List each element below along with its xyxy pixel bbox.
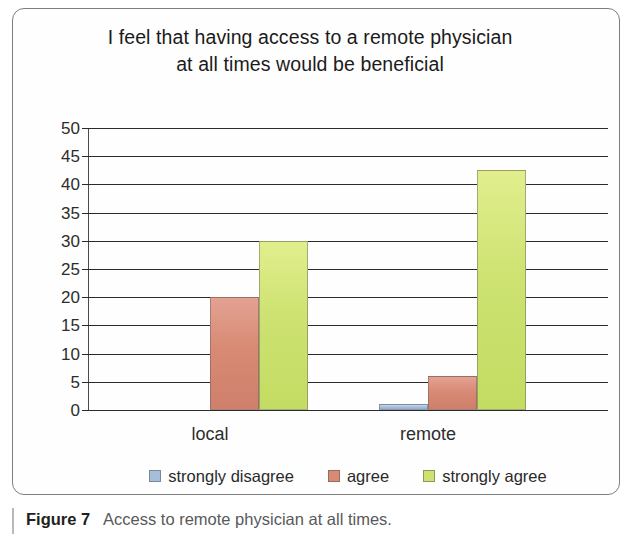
gridline-0 (88, 410, 608, 411)
legend-item-strongly-agree[interactable]: strongly agree (423, 468, 547, 484)
legend-label-strongly-agree: strongly agree (442, 468, 547, 484)
caption-rule (12, 508, 14, 534)
chart-legend: strongly disagreeagreestrongly agree (88, 468, 608, 484)
y-tick-mark-20 (82, 297, 88, 298)
y-tick-label-50: 50 (36, 120, 80, 137)
gridline-10 (88, 354, 608, 355)
y-tick-label-25: 25 (36, 261, 80, 278)
bar-remote-agree (428, 376, 477, 410)
plot-area (88, 128, 608, 410)
legend-swatch-icon-strongly-disagree (149, 470, 161, 482)
gridline-40 (88, 184, 608, 185)
bar-local-agree (210, 297, 259, 410)
chart-title-line-1: I feel that having access to a remote ph… (40, 24, 580, 51)
chart-title-line-2: at all times would be beneficial (40, 51, 580, 78)
y-tick-mark-5 (82, 382, 88, 383)
figure-container: I feel that having access to a remote ph… (0, 0, 632, 540)
x-axis-label-local: local (150, 424, 270, 445)
y-tick-mark-45 (82, 156, 88, 157)
y-tick-label-10: 10 (36, 346, 80, 363)
y-tick-label-35: 35 (36, 205, 80, 222)
y-axis-tick-labels: 50454035302520151050 (28, 128, 80, 410)
y-tick-label-40: 40 (36, 176, 80, 193)
bar-remote-strongly-disagree (379, 404, 428, 410)
legend-label-agree: agree (347, 468, 389, 484)
gridline-30 (88, 241, 608, 242)
legend-swatch-icon-strongly-agree (423, 470, 435, 482)
y-tick-label-15: 15 (36, 317, 80, 334)
gridline-5 (88, 382, 608, 383)
gridline-35 (88, 213, 608, 214)
chart-title: I feel that having access to a remote ph… (40, 24, 580, 78)
y-tick-mark-35 (82, 213, 88, 214)
y-tick-label-5: 5 (36, 374, 80, 391)
y-tick-label-45: 45 (36, 148, 80, 165)
y-tick-mark-30 (82, 241, 88, 242)
y-tick-mark-50 (82, 128, 88, 129)
x-axis-label-remote: remote (368, 424, 488, 445)
gridline-50 (88, 128, 608, 129)
y-tick-label-0: 0 (36, 402, 80, 419)
caption-figure-number: Figure 7 (26, 510, 90, 528)
legend-swatch-icon-agree (328, 470, 340, 482)
y-tick-mark-25 (82, 269, 88, 270)
bar-local-strongly-agree (259, 241, 308, 410)
legend-item-strongly-disagree[interactable]: strongly disagree (149, 468, 294, 484)
gridline-15 (88, 325, 608, 326)
y-tick-label-30: 30 (36, 233, 80, 250)
caption-body-text: Access to remote physician at all times. (103, 510, 392, 528)
legend-label-strongly-disagree: strongly disagree (168, 468, 294, 484)
legend-item-agree[interactable]: agree (328, 468, 389, 484)
y-tick-mark-10 (82, 354, 88, 355)
bar-remote-strongly-agree (477, 170, 526, 410)
figure-caption: Figure 7 Access to remote physician at a… (26, 508, 392, 530)
y-tick-mark-15 (82, 325, 88, 326)
gridline-25 (88, 269, 608, 270)
y-tick-mark-40 (82, 184, 88, 185)
gridline-45 (88, 156, 608, 157)
y-tick-mark-0 (82, 410, 88, 411)
y-tick-label-20: 20 (36, 289, 80, 306)
gridline-20 (88, 297, 608, 298)
